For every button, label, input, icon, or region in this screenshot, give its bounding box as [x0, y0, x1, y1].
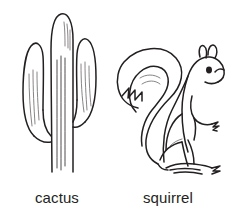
flashcard-page: cactus squirrel	[0, 0, 228, 214]
cactus-label: cactus	[0, 185, 114, 211]
squirrel-label: squirrel	[108, 185, 228, 211]
cactus-illustration	[0, 0, 114, 180]
squirrel-illustration	[108, 0, 228, 180]
